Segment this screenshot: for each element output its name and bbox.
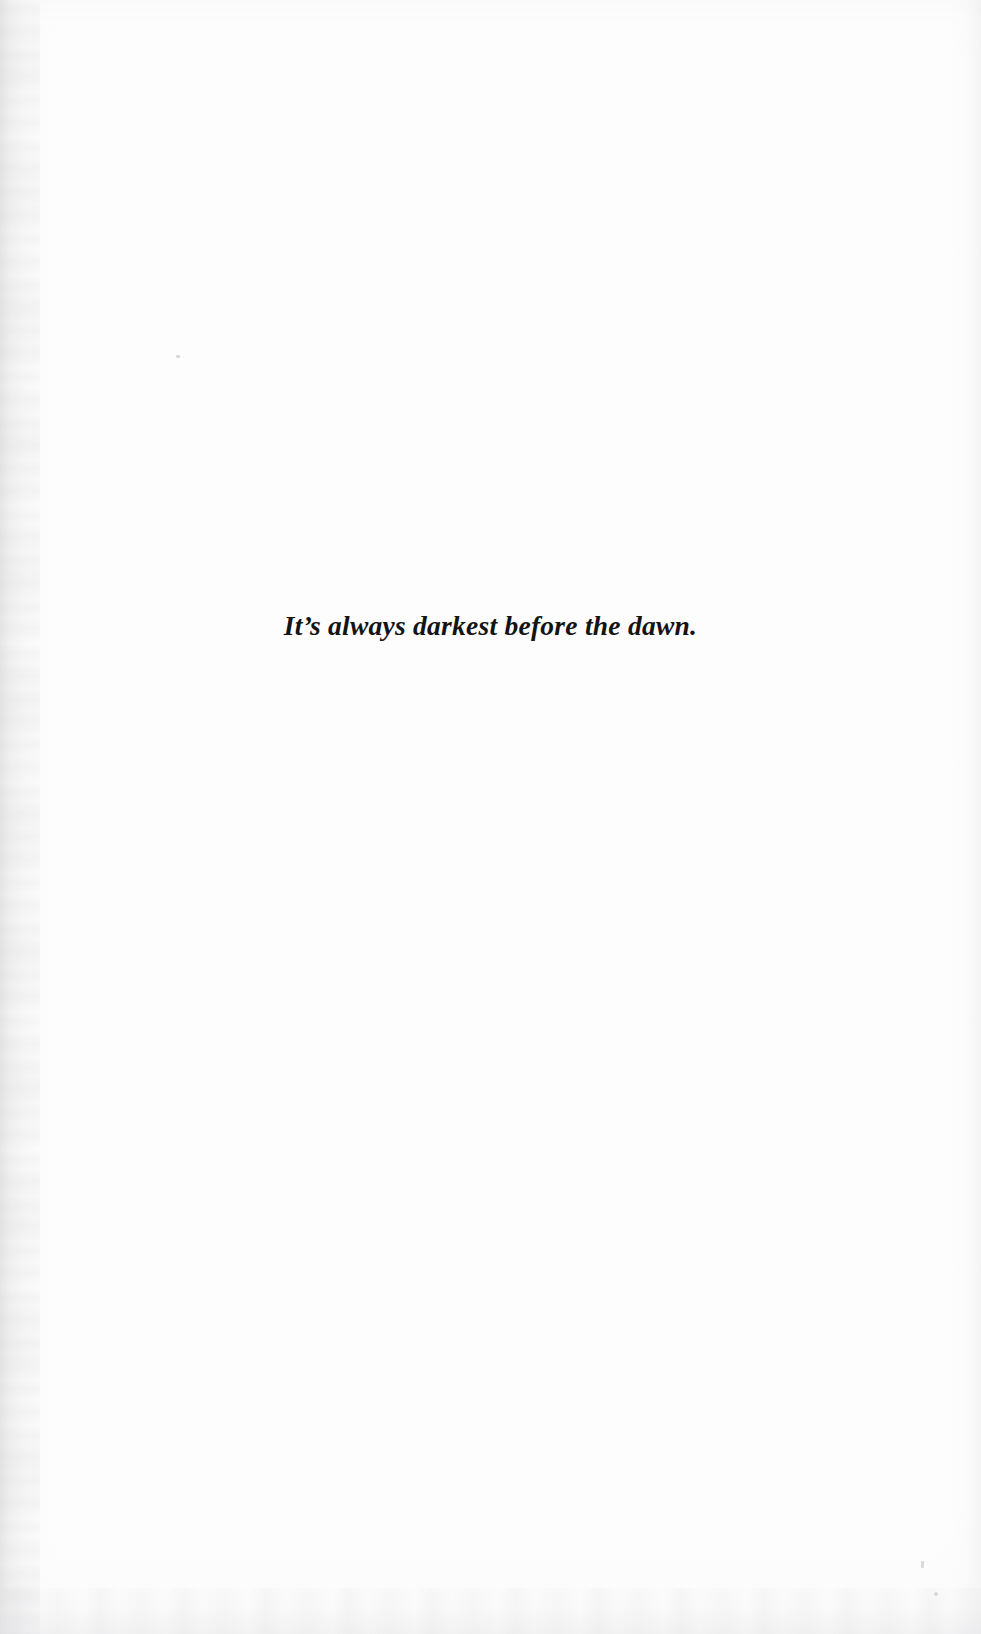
epigraph-text: It’s always darkest before the dawn. [284,607,697,645]
epigraph-block: It’s always darkest before the dawn. [0,607,981,645]
scan-edge-bottom-mottle [0,1588,981,1634]
scanned-page: It’s always darkest before the dawn. [0,0,981,1634]
scan-edge-left-mottle [0,0,40,1634]
scan-speck [921,1561,924,1568]
scan-edge-right-shadow [935,0,981,1634]
scan-edge-bottom-shadow [0,1514,981,1634]
scan-speck [176,355,180,358]
scan-speck [934,1592,938,1596]
scan-edge-left-shadow [0,0,58,1634]
scan-edge-top-shadow [0,0,981,54]
